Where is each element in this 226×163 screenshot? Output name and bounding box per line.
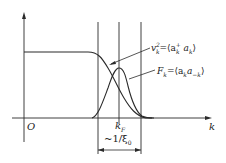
occupation-leader-arrow-icon xyxy=(109,61,116,65)
width-arrow-right-icon xyxy=(135,148,141,152)
pair-amplitude-label: Fk=⟨aka−k⟩ xyxy=(157,66,205,80)
x-axis-arrow-icon xyxy=(205,116,212,120)
pair-amplitude-leader xyxy=(129,70,155,79)
origin-label: O xyxy=(27,122,35,132)
occupation-label: v2k=⟨ak+ ak⟩ xyxy=(151,40,196,57)
coherence-width-label: ~1/ξ0 xyxy=(104,134,131,148)
pair-amplitude-curve xyxy=(92,68,154,118)
width-arrow-left-icon xyxy=(98,148,104,152)
y-axis-arrow-icon xyxy=(22,12,26,19)
occupation-curve xyxy=(24,52,152,118)
occupation-leader xyxy=(111,48,150,64)
x-axis-label: k xyxy=(209,122,215,132)
